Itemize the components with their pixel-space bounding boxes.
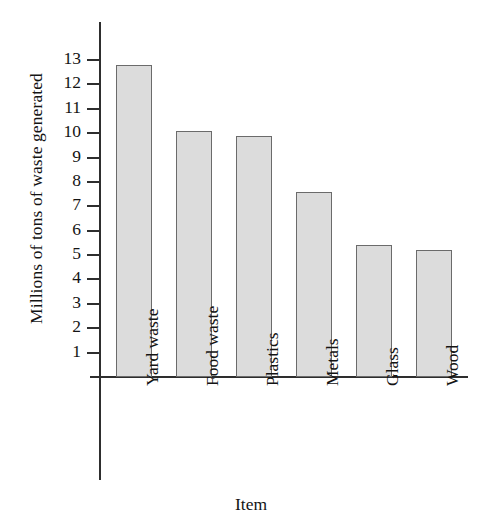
y-tick-mark	[87, 205, 99, 207]
y-tick-label-text: 9	[55, 148, 81, 166]
y-axis-line	[99, 22, 101, 480]
y-tick-mark	[87, 108, 99, 110]
y-tick-label: 5	[47, 245, 81, 263]
y-axis-title: Millions of tons of waste generated	[26, 29, 47, 369]
y-tick-label: 4	[47, 269, 81, 287]
category-label: Food waste	[202, 306, 223, 386]
y-tick-mark	[87, 303, 99, 305]
y-tick-label-text: 8	[55, 172, 81, 190]
bar-chart: Millions of tons of waste generated 1234…	[0, 0, 502, 528]
y-tick-mark	[87, 157, 99, 159]
y-tick-label-text: 2	[55, 318, 81, 336]
y-tick-mark	[87, 132, 99, 134]
y-tick-label: 11	[47, 99, 81, 117]
y-tick-mark	[87, 83, 99, 85]
y-tick-mark	[87, 254, 99, 256]
y-tick-mark	[87, 278, 99, 280]
y-tick-label: 13	[47, 50, 81, 68]
category-label: Metals	[322, 338, 343, 386]
y-tick-label-text: 4	[55, 269, 81, 287]
y-tick-label: 2	[47, 318, 81, 336]
y-tick-label-text: 12	[55, 74, 81, 92]
y-tick-label-text: 13	[55, 50, 81, 68]
category-label: Wood	[442, 345, 463, 386]
y-tick-label: 8	[47, 172, 81, 190]
y-tick-mark	[87, 230, 99, 232]
y-tick-label: 10	[47, 123, 81, 141]
category-label: Yard waste	[142, 309, 163, 386]
y-tick-label: 3	[47, 294, 81, 312]
y-tick-label-text: 7	[55, 196, 81, 214]
y-tick-mark	[87, 352, 99, 354]
y-tick-mark	[87, 59, 99, 61]
category-label: Glass	[382, 347, 403, 386]
y-tick-label: 1	[47, 343, 81, 361]
category-label: Plastics	[262, 333, 283, 386]
x-axis-title: Item	[0, 494, 502, 515]
y-tick-label-text: 5	[55, 245, 81, 263]
y-tick-label: 9	[47, 148, 81, 166]
y-tick-label: 12	[47, 74, 81, 92]
y-tick-label-text: 6	[55, 221, 81, 239]
y-tick-label-text: 11	[55, 99, 81, 117]
y-tick-mark	[87, 327, 99, 329]
y-tick-label: 7	[47, 196, 81, 214]
y-tick-mark	[87, 181, 99, 183]
y-tick-label-text: 10	[55, 123, 81, 141]
y-tick-label-text: 1	[55, 343, 81, 361]
y-tick-label: 6	[47, 221, 81, 239]
y-tick-label-text: 3	[55, 294, 81, 312]
